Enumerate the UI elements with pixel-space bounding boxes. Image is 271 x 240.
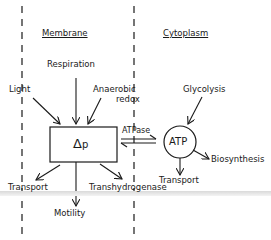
redox-label: redox (116, 95, 140, 104)
anaerobic-arrow (88, 98, 101, 124)
motility-label: Motility (54, 209, 85, 218)
biosynthesis-label: Biosynthesis (211, 155, 264, 164)
membrane-heading: Membrane (42, 29, 88, 38)
diagram-lines (0, 0, 271, 240)
atp-label: ATP (169, 136, 187, 147)
light-arrow (33, 98, 60, 124)
transhydrogenase-arrow (100, 164, 122, 179)
transhydrogenase-label: Transhydrogenase (89, 183, 167, 192)
biosynthesis-arrow (193, 150, 209, 159)
atpase-label: ATPase (122, 127, 150, 135)
respiration-label: Respiration (47, 60, 95, 69)
glycolysis-label: Glycolysis (183, 85, 225, 94)
cytoplasm-heading: Cytoplasm (163, 29, 208, 38)
transport-left-label: Transport (8, 183, 48, 192)
light-label: Light (9, 85, 30, 94)
energy-flow-diagram: Membrane Cytoplasm Respiration Light Ana… (0, 0, 271, 240)
delta-p-label: Δp (73, 136, 88, 151)
transport-arrow-left (36, 165, 60, 180)
delta-symbol: Δ (73, 136, 82, 151)
anaerobic-label: Anaerobic (93, 85, 136, 94)
p-subscript: p (82, 139, 88, 150)
glycolysis-arrow (188, 97, 202, 124)
